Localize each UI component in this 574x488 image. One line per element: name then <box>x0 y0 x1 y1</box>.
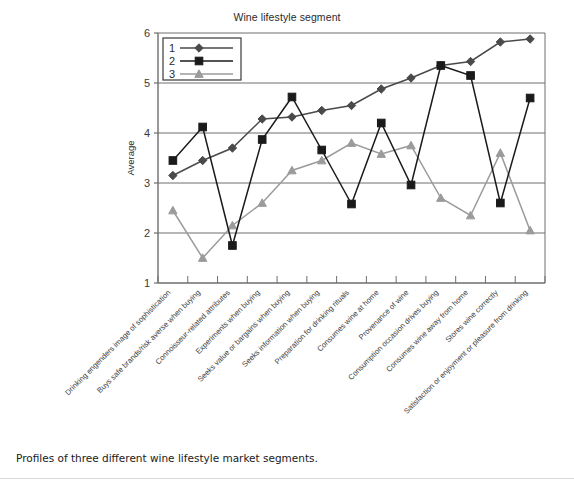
data-point-diamond <box>288 113 296 121</box>
data-point-diamond <box>407 74 415 82</box>
data-point-square <box>199 123 207 131</box>
line-chart: 123456AverageDrinking engenders image of… <box>0 0 574 488</box>
y-axis-tick-label: 5 <box>144 77 150 89</box>
data-point-diamond <box>318 106 326 114</box>
data-point-square <box>348 200 356 208</box>
divider <box>0 478 574 479</box>
figure-container: Wine lifestyle segment 123456AverageDrin… <box>0 0 574 488</box>
y-axis-tick-label: 3 <box>144 177 150 189</box>
data-point-triangle <box>318 156 326 164</box>
data-point-square <box>318 146 326 154</box>
figure-caption: Profiles of three different wine lifesty… <box>16 452 318 464</box>
data-point-square <box>437 62 445 70</box>
series-line <box>173 66 530 246</box>
legend: 123 <box>163 38 241 80</box>
data-point-square <box>526 94 534 102</box>
data-point-diamond <box>466 57 474 65</box>
data-point-triangle <box>437 194 445 202</box>
y-axis-tick-label: 4 <box>144 127 150 139</box>
data-point-square <box>229 242 237 250</box>
legend-label-1: 1 <box>169 42 175 54</box>
legend-marker-square <box>195 57 203 65</box>
data-point-triangle <box>526 226 534 234</box>
x-axis-category-label: Stores wine correctly <box>444 288 500 344</box>
y-axis-tick-label: 6 <box>144 27 150 39</box>
y-axis-tick-label: 2 <box>144 227 150 239</box>
data-point-square <box>169 157 177 165</box>
data-point-square <box>288 93 296 101</box>
data-point-triangle <box>466 211 474 219</box>
data-point-diamond <box>496 38 504 46</box>
legend-label-3: 3 <box>169 68 175 80</box>
data-point-triangle <box>169 206 177 214</box>
data-point-diamond <box>526 35 534 43</box>
data-point-diamond <box>377 85 385 93</box>
data-point-diamond <box>347 101 355 109</box>
data-point-diamond <box>198 156 206 164</box>
data-point-square <box>497 199 505 207</box>
data-point-triangle <box>347 139 355 147</box>
data-point-square <box>258 136 266 144</box>
legend-label-2: 2 <box>169 55 175 67</box>
data-point-square <box>407 181 415 189</box>
y-axis-title: Average <box>125 140 136 175</box>
data-point-square <box>377 119 385 127</box>
data-point-square <box>467 72 475 80</box>
data-point-triangle <box>496 149 504 157</box>
x-axis-category-label: Drinking engenders image of sophisticati… <box>63 288 172 397</box>
series-2 <box>169 62 534 250</box>
y-axis-tick-label: 1 <box>144 277 150 289</box>
data-point-diamond <box>169 171 177 179</box>
data-point-triangle <box>407 141 415 149</box>
